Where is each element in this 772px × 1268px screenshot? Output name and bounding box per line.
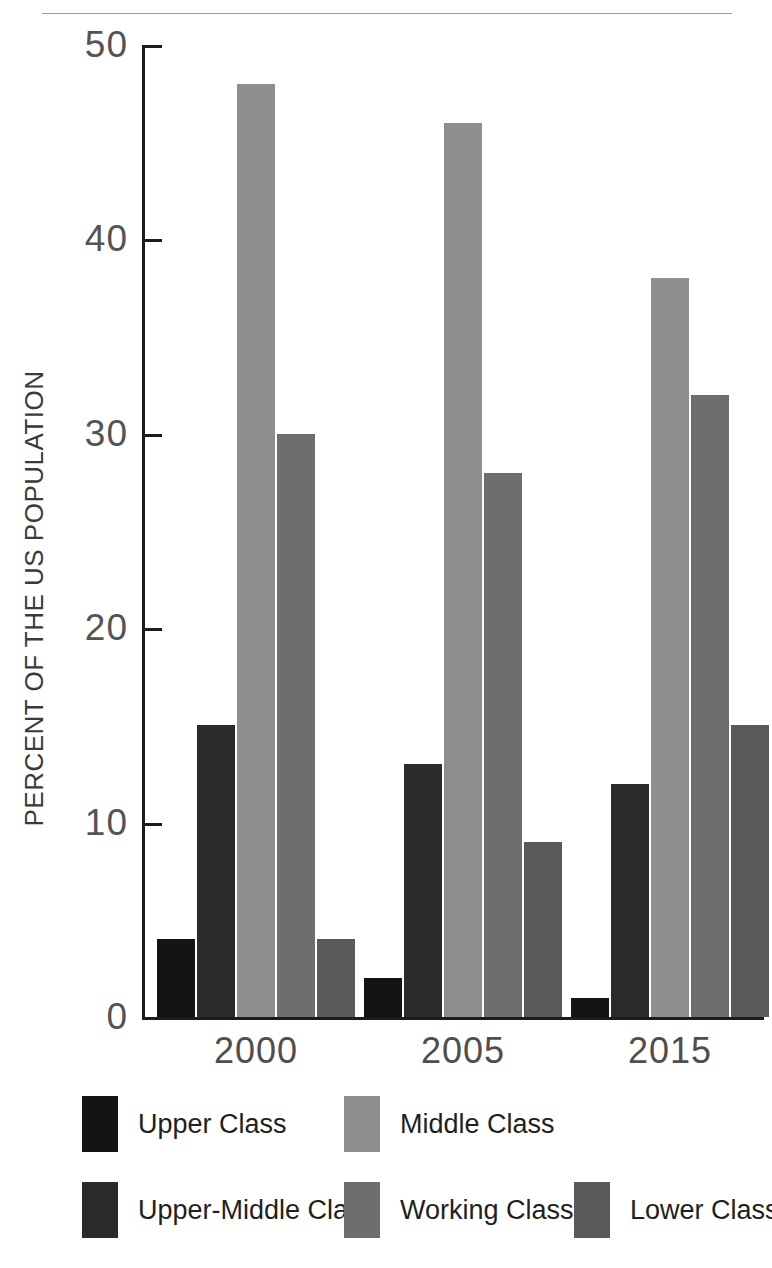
legend-swatch-icon	[82, 1096, 118, 1152]
legend-item-lower-class[interactable]: Lower Class	[574, 1179, 772, 1241]
bar-2015-working-class	[691, 395, 729, 1017]
legend-swatch-icon	[82, 1182, 118, 1238]
x-axis-line	[142, 1017, 764, 1020]
legend-label: Upper-Middle Class	[138, 1195, 375, 1226]
legend-row: Upper ClassMiddle Class	[82, 1093, 772, 1155]
legend-item-working-class[interactable]: Working Class	[344, 1179, 574, 1241]
y-tick-label: 10	[85, 802, 128, 844]
legend-label: Lower Class	[630, 1195, 772, 1226]
x-tick-label-2015: 2015	[628, 1030, 712, 1072]
bar-2000-working-class	[277, 434, 315, 1017]
legend-item-upper-middle-class[interactable]: Upper-Middle Class	[82, 1179, 375, 1241]
y-tick-label: 50	[85, 24, 128, 66]
x-tick-label-2005: 2005	[421, 1030, 505, 1072]
bar-2015-middle-class	[651, 278, 689, 1017]
legend-swatch-icon	[344, 1182, 380, 1238]
bar-2005-working-class	[484, 473, 522, 1017]
bar-2015-lower-class	[731, 725, 769, 1017]
bar-2005-middle-class	[444, 123, 482, 1017]
bar-2005-lower-class	[524, 842, 562, 1017]
chart-legend: Upper ClassMiddle Class Upper-Middle Cla…	[82, 1093, 772, 1253]
y-tick-label: 0	[106, 996, 128, 1038]
legend-label: Working Class	[400, 1195, 574, 1226]
y-tick-label: 30	[85, 413, 128, 455]
bar-2000-upper-middle-class	[197, 725, 235, 1017]
legend-swatch-icon	[574, 1182, 610, 1238]
bar-2000-middle-class	[237, 84, 275, 1017]
y-tick-label: 20	[85, 607, 128, 649]
y-axis-title: PERCENT OF THE US POPULATION	[19, 319, 50, 879]
y-tick-label: 40	[85, 218, 128, 260]
bar-2005-upper-class	[364, 978, 402, 1017]
bars-layer	[145, 45, 760, 1017]
bar-2000-upper-class	[157, 939, 195, 1017]
legend-label: Upper Class	[138, 1109, 287, 1140]
bar-2000-lower-class	[317, 939, 355, 1017]
legend-label: Middle Class	[400, 1109, 555, 1140]
legend-row: Upper-Middle ClassWorking ClassLower Cla…	[82, 1179, 772, 1241]
legend-item-middle-class[interactable]: Middle Class	[344, 1093, 555, 1155]
bar-2015-upper-class	[571, 998, 609, 1017]
chart-page: PERCENT OF THE US POPULATION 01020304050…	[0, 0, 772, 1268]
bar-2005-upper-middle-class	[404, 764, 442, 1017]
y-tick-mark	[145, 1017, 162, 1020]
bar-2015-upper-middle-class	[611, 784, 649, 1017]
x-tick-label-2000: 2000	[214, 1030, 298, 1072]
legend-item-upper-class[interactable]: Upper Class	[82, 1093, 287, 1155]
legend-swatch-icon	[344, 1096, 380, 1152]
plot-area: 01020304050 200020052015	[142, 45, 760, 1017]
top-divider-rule	[42, 13, 732, 14]
